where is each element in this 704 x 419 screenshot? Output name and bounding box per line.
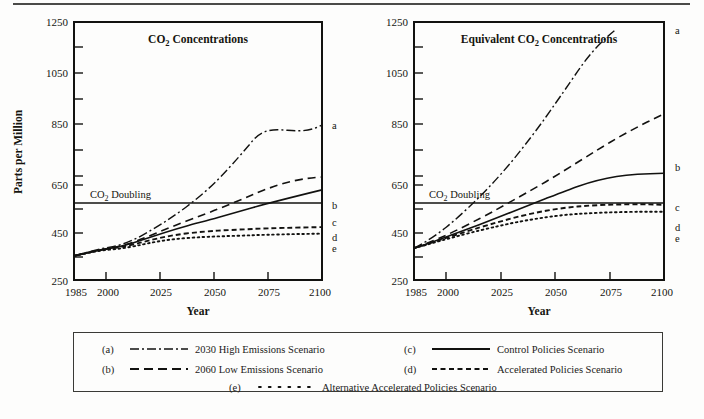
ytick-850: 850 bbox=[52, 118, 69, 130]
xtick-1985-r: 1985 bbox=[405, 286, 428, 298]
curve-e-right bbox=[414, 212, 664, 248]
panel-equivalent-co2-concentrations: 1250 1050 850 650 450 250 bbox=[360, 0, 704, 330]
ytick-650-r: 650 bbox=[392, 179, 409, 191]
curve-e-left bbox=[74, 234, 322, 256]
panel-title-left-suffix: Concentrations bbox=[170, 33, 249, 45]
panel-right-curves bbox=[414, 29, 664, 248]
legend-label-a: 2030 High Emissions Scenario bbox=[195, 344, 325, 355]
ytick-1250: 1250 bbox=[46, 16, 69, 28]
legend-key-c: (c) bbox=[404, 344, 430, 355]
ytick-1050: 1050 bbox=[46, 67, 69, 79]
x-axis-title: Year bbox=[187, 305, 210, 317]
legend-swatch-dash-dot-icon bbox=[130, 343, 188, 355]
xtick-2000-r: 2000 bbox=[437, 286, 460, 298]
curve-label-c-right: c bbox=[675, 202, 680, 213]
panel-right-curve-labels: a b c d e bbox=[675, 25, 681, 244]
curve-label-d-left: d bbox=[332, 232, 338, 243]
curve-label-d-right: d bbox=[675, 222, 681, 233]
curve-label-e-left: e bbox=[332, 243, 337, 254]
panel-left-y-ticks bbox=[74, 47, 83, 257]
legend-swatch-short-dash-icon bbox=[432, 363, 490, 375]
curve-label-a-left: a bbox=[332, 120, 337, 131]
panel-left-x-ticks bbox=[74, 272, 322, 280]
xtick-1985: 1985 bbox=[65, 286, 88, 298]
legend-item-c[interactable]: (c) Control Policies Scenario bbox=[404, 343, 604, 355]
legend-label-c: Control Policies Scenario bbox=[497, 344, 604, 355]
ytick-850-r: 850 bbox=[392, 118, 409, 130]
curve-label-e-right: e bbox=[675, 233, 680, 244]
ytick-450-r: 450 bbox=[392, 227, 409, 239]
xtick-2050: 2050 bbox=[204, 286, 227, 298]
panel-title-left-prefix: CO bbox=[148, 33, 165, 45]
xtick-2100: 2100 bbox=[309, 286, 332, 298]
co2-doubling-label-left: CO2 Doubling bbox=[90, 189, 152, 203]
panel-title-right-prefix: Equivalent CO bbox=[461, 33, 535, 46]
legend-label-b: 2060 Low Emissions Scenario bbox=[195, 364, 323, 375]
ytick-650: 650 bbox=[52, 179, 69, 191]
legend-box: (a) 2030 High Emissions Scenario (b) 206… bbox=[73, 332, 663, 392]
legend-item-a[interactable]: (a) 2030 High Emissions Scenario bbox=[102, 343, 325, 355]
panel-title-right: Equivalent CO2 Concentrations bbox=[461, 33, 618, 48]
plot-frame-left bbox=[74, 22, 322, 280]
panel-right-xtick-labels: 1985 2000 2025 2050 2075 2100 bbox=[405, 286, 674, 298]
curve-label-b-left: b bbox=[332, 200, 337, 211]
legend-grid: (a) 2030 High Emissions Scenario (b) 206… bbox=[74, 333, 662, 391]
xtick-2100-r: 2100 bbox=[651, 286, 674, 298]
ytick-450: 450 bbox=[52, 227, 69, 239]
panel-right-y-ticks bbox=[414, 47, 423, 257]
curve-label-b-right: b bbox=[675, 162, 680, 173]
legend-item-d[interactable]: (d) Accelerated Policies Scenario bbox=[404, 363, 622, 375]
ytick-1250-r: 1250 bbox=[386, 16, 409, 28]
y-axis-title: Parts per Million bbox=[12, 109, 25, 194]
panel-left-ytick-labels: 1250 1050 850 650 450 250 bbox=[46, 16, 69, 287]
legend-swatch-dashed-icon bbox=[130, 363, 188, 375]
ytick-1050-r: 1050 bbox=[386, 67, 409, 79]
panel-left-curve-labels: a b c d e bbox=[332, 120, 338, 254]
panel-title-left: CO2 Concentrations bbox=[148, 33, 248, 48]
legend-swatch-dotted-icon bbox=[257, 381, 315, 393]
panel-left-ylabel: Parts per Million bbox=[12, 109, 25, 194]
legend-label-e: Alternative Accelerated Policies Scenari… bbox=[322, 382, 497, 393]
legend-key-d: (d) bbox=[404, 364, 430, 375]
curve-a-right bbox=[414, 29, 617, 248]
legend-key-a: (a) bbox=[102, 344, 128, 355]
xtick-2075-r: 2075 bbox=[600, 286, 623, 298]
legend-item-e[interactable]: (e) Alternative Accelerated Policies Sce… bbox=[229, 381, 497, 393]
xtick-2050-r: 2050 bbox=[545, 286, 568, 298]
curve-d-left bbox=[74, 227, 322, 256]
curve-d-right bbox=[414, 204, 664, 248]
figure-root: Parts per Million 1250 1050 850 650 450 … bbox=[0, 0, 704, 419]
legend-key-b: (b) bbox=[102, 364, 128, 375]
legend-key-e: (e) bbox=[229, 382, 255, 393]
curve-label-c-left: c bbox=[332, 217, 337, 228]
panel-right-ytick-labels: 1250 1050 850 650 450 250 bbox=[386, 16, 409, 287]
xtick-2025: 2025 bbox=[150, 286, 173, 298]
legend-swatch-solid-icon bbox=[432, 343, 490, 355]
curve-c-right bbox=[414, 173, 664, 248]
panel-co2-concentrations: Parts per Million 1250 1050 850 650 450 … bbox=[0, 0, 360, 330]
panel-right-x-ticks bbox=[414, 272, 664, 280]
curve-label-a-right: a bbox=[675, 25, 680, 36]
panel-left-xtick-labels: 1985 2000 2025 2050 2075 2100 bbox=[65, 286, 332, 298]
xtick-2075: 2075 bbox=[258, 286, 281, 298]
curve-b-right bbox=[414, 114, 664, 248]
panel-title-right-suffix: Concentrations bbox=[539, 33, 618, 45]
xtick-2025-r: 2025 bbox=[491, 286, 514, 298]
legend-item-b[interactable]: (b) 2060 Low Emissions Scenario bbox=[102, 363, 323, 375]
x-axis-title-right: Year bbox=[528, 305, 551, 317]
legend-label-d: Accelerated Policies Scenario bbox=[497, 364, 622, 375]
plot-frame-right bbox=[414, 22, 664, 280]
xtick-2000: 2000 bbox=[97, 286, 120, 298]
